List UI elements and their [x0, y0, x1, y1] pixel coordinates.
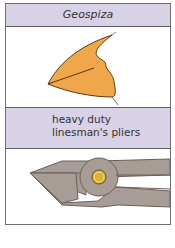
label-geospiza: Geospiza: [63, 8, 113, 21]
comparison-card: Geospiza heavy duty linesman's pliers: [5, 3, 171, 225]
label-pliers-line2: linesman's pliers: [52, 126, 170, 139]
label-pliers-line1: heavy duty: [52, 113, 170, 126]
header-pliers: heavy duty linesman's pliers: [6, 107, 170, 149]
pliers-icon: [6, 149, 170, 225]
pliers-illustration: [6, 149, 170, 225]
finch-beak-icon: [6, 27, 170, 107]
header-geospiza: Geospiza: [6, 4, 170, 27]
beak-illustration: [6, 27, 170, 107]
